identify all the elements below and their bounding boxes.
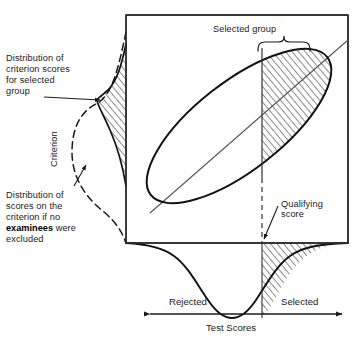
diagram-canvas: Selected group Qualifying score Criterio… <box>0 0 360 338</box>
dist-all-label-line5: excluded <box>6 234 44 244</box>
dist-selected-leader <box>44 97 100 100</box>
dist-selected-label-line4: group <box>6 86 30 96</box>
selection-effects-diagram: Selected group Qualifying score Criterio… <box>0 0 360 338</box>
dist-all-label-line4: examinees were <box>6 223 76 233</box>
dist-selected-label-line2: criterion scores <box>6 64 70 74</box>
selected-group-label: Selected group <box>213 24 276 34</box>
dist-all-label-line2: scores on the <box>6 201 62 211</box>
dist-selected-label-line3: for selected <box>6 75 55 85</box>
rejected-label: Rejected <box>169 296 207 307</box>
selected-label: Selected <box>281 296 318 307</box>
qualifying-score-label-line1: Qualifying <box>281 199 323 209</box>
dist-all-label-line3: criterion if no <box>6 212 60 222</box>
qualifying-score-label-line2: score <box>281 209 304 219</box>
dist-all-label-line1: Distribution of <box>6 190 64 200</box>
dist-selected-label-line1: Distribution of <box>6 53 64 63</box>
test-scores-axis-label: Test Scores <box>206 322 256 333</box>
criterion-axis-label: Criterion <box>49 131 59 167</box>
dist-all-label-line4-rest: were <box>53 223 76 233</box>
dist-all-label-emphasis: examinees <box>6 223 53 233</box>
